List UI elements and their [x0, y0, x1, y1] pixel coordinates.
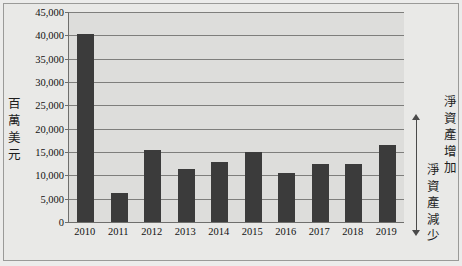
y-tick-label: 10,000 [22, 170, 64, 181]
gridline [69, 105, 404, 106]
chart-figure: 百 萬 美 元 05,00010,00015,00020,00025,00030… [0, 0, 462, 266]
y-tick-label: 30,000 [22, 77, 64, 88]
net-assets-increase-char: 資 [443, 111, 458, 128]
label-net-assets-increase: 淨資產增加 [443, 94, 458, 177]
gridline [69, 59, 404, 60]
y-tick-label: 15,000 [22, 147, 64, 158]
y-tick-mark [65, 35, 69, 36]
plot-area [68, 12, 404, 223]
y-tick-label: 0 [22, 217, 64, 228]
net-assets-increase-char: 加 [443, 160, 458, 177]
net-assets-annotation: 淨資產增加 淨資產減少 [408, 96, 458, 246]
net-assets-increase-char: 淨 [443, 94, 458, 111]
y-tick-mark [65, 12, 69, 13]
y-axis-title: 百 萬 美 元 [6, 96, 22, 164]
net-assets-increase-char: 增 [443, 144, 458, 161]
gridline [69, 35, 404, 36]
y-tick-label: 25,000 [22, 100, 64, 111]
net-assets-decrease-char: 資 [426, 179, 441, 196]
gridline [69, 82, 404, 83]
label-net-assets-decrease: 淨資產減少 [426, 162, 441, 245]
y-tick-label: 35,000 [22, 53, 64, 64]
x-tick-label-2019: 2019 [366, 226, 406, 237]
bar-2013[interactable] [178, 169, 195, 222]
y-tick-mark [65, 129, 69, 130]
y-tick-mark [65, 59, 69, 60]
y-tick-mark [65, 222, 69, 223]
bar-2010[interactable] [77, 34, 94, 222]
gridline [69, 12, 404, 13]
net-assets-decrease-char: 產 [426, 195, 441, 212]
y-tick-label: 40,000 [22, 30, 64, 41]
y-axis-title-char: 元 [6, 147, 22, 164]
bar-2015[interactable] [245, 152, 262, 222]
y-axis-tick-labels: 05,00010,00015,00020,00025,00030,00035,0… [22, 12, 64, 223]
y-tick-label: 45,000 [22, 7, 64, 18]
y-tick-mark [65, 105, 69, 106]
y-axis-title-char: 萬 [6, 113, 22, 130]
gridline [69, 129, 404, 130]
x-axis-tick-labels: 2010201120122013201420152016201720182019 [68, 226, 404, 244]
y-tick-mark [65, 152, 69, 153]
net-assets-decrease-char: 淨 [426, 162, 441, 179]
y-tick-label: 20,000 [22, 123, 64, 134]
y-tick-mark [65, 199, 69, 200]
bar-2012[interactable] [144, 150, 161, 222]
y-axis-title-char: 百 [6, 96, 22, 113]
arrow-head-down-icon [412, 230, 420, 236]
y-tick-label: 5,000 [22, 193, 64, 204]
net-assets-decrease-char: 減 [426, 212, 441, 229]
bar-2016[interactable] [278, 173, 295, 222]
y-tick-mark [65, 82, 69, 83]
bar-2017[interactable] [312, 164, 329, 222]
bar-2014[interactable] [211, 162, 228, 222]
bar-2011[interactable] [111, 193, 128, 222]
bar-2018[interactable] [345, 164, 362, 222]
y-axis-title-char: 美 [6, 130, 22, 147]
gridline [69, 152, 404, 153]
arrow-line [416, 119, 417, 231]
y-tick-mark [65, 175, 69, 176]
net-assets-decrease-char: 少 [426, 228, 441, 245]
double-arrow-icon [411, 114, 423, 236]
net-assets-increase-char: 產 [443, 127, 458, 144]
bar-2019[interactable] [379, 145, 396, 222]
